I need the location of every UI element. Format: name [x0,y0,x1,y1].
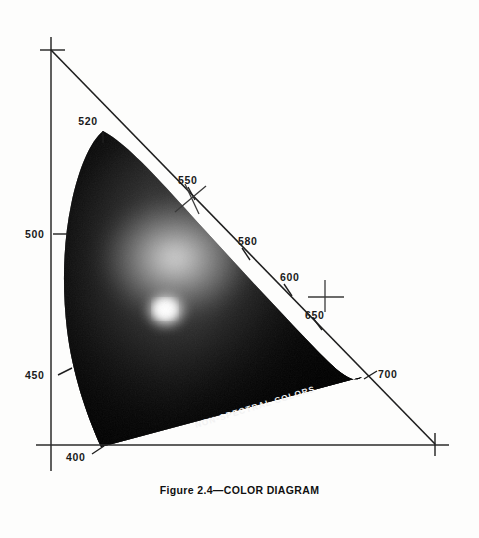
label-700: 700 [378,368,397,380]
figure-page: NON-SPECTRAL COLORS [0,0,479,538]
figure-caption: Figure 2.4—COLOR DIAGRAM [0,484,479,496]
label-450: 450 [25,369,44,381]
label-520: 520 [78,115,97,127]
label-580: 580 [238,235,257,247]
label-400: 400 [66,451,85,463]
label-500: 500 [25,228,44,240]
color-diagram-figure: NON-SPECTRAL COLORS [0,0,479,538]
label-600: 600 [280,271,299,283]
label-650: 650 [305,309,324,321]
label-550: 550 [178,174,197,186]
